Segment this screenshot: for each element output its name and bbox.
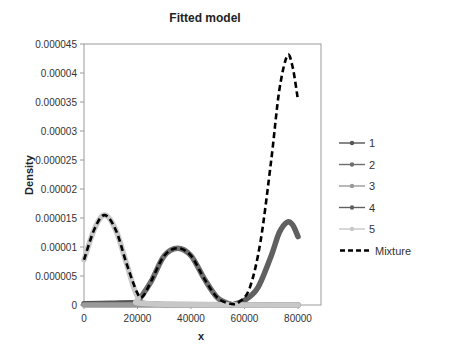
y-tick-label: 0.00001: [41, 242, 78, 253]
x-tick-label: 0: [81, 313, 87, 324]
y-tick-label: 0.000015: [35, 213, 77, 224]
legend-label: Mixture: [375, 245, 411, 257]
legend-label: 2: [369, 159, 375, 171]
legend-item-4: 4: [339, 202, 375, 214]
x-axis: 020000400006000080000: [81, 305, 312, 324]
y-tick-label: 0.000005: [35, 271, 77, 282]
series-line-4: [231, 222, 298, 305]
plot-frame: [84, 44, 321, 305]
chart-canvas: 00.0000050.000010.0000150.000020.0000250…: [0, 0, 457, 359]
legend-label: 4: [369, 202, 375, 214]
y-tick-label: 0.000045: [35, 39, 77, 50]
legend-item-2: 2: [339, 159, 375, 171]
y-axis-title: Density: [23, 154, 35, 195]
legend-item-mixture: Mixture: [340, 245, 411, 257]
legend-item-5: 5: [339, 223, 375, 235]
y-tick-label: 0.000035: [35, 97, 77, 108]
legend-marker-icon: [350, 205, 354, 209]
legend-marker-icon: [350, 184, 354, 188]
legend-marker-icon: [350, 141, 354, 145]
series-layer: [84, 55, 298, 305]
x-axis-title: x: [198, 330, 205, 342]
x-tick-label: 40000: [177, 313, 205, 324]
y-tick-label: 0.000025: [35, 155, 77, 166]
y-tick-label: 0.00004: [41, 68, 78, 79]
plot-area-border: [84, 44, 321, 305]
legend-marker-icon: [350, 162, 354, 166]
y-axis: 00.0000050.000010.0000150.000020.0000250…: [35, 39, 84, 311]
y-tick-label: 0: [71, 300, 77, 311]
y-tick-label: 0.00002: [41, 184, 78, 195]
legend-item-3: 3: [339, 180, 375, 192]
legend-label: 5: [369, 223, 375, 235]
legend-item-1: 1: [339, 137, 375, 149]
legend: 12345Mixture: [339, 137, 411, 257]
legend-marker-icon: [350, 227, 354, 231]
legend-label: 3: [369, 180, 375, 192]
y-tick-label: 0.00003: [41, 126, 78, 137]
x-tick-label: 20000: [124, 313, 152, 324]
x-tick-label: 60000: [231, 313, 259, 324]
legend-label: 1: [369, 137, 375, 149]
x-tick-label: 80000: [284, 313, 312, 324]
